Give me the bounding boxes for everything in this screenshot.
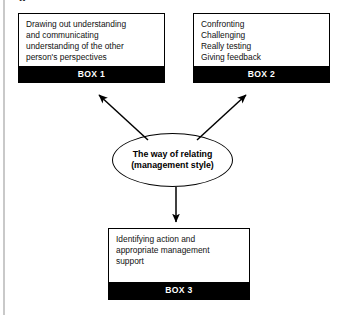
box-2-label: BOX 2 (194, 66, 329, 83)
box-1-line-2: and communicating (26, 30, 158, 41)
box-1-line-4: person's perspectives (26, 52, 158, 63)
arrow-to-box2 (197, 95, 246, 140)
box-3-line-1: Identifying action and (116, 234, 243, 245)
box-3[interactable]: Identifying action and appropriate manag… (108, 228, 250, 300)
box-2-line-3: Really testing (201, 41, 323, 52)
box-1-line-1: Drawing out understanding (26, 19, 158, 30)
box-2-line-4: Giving feedback (201, 52, 323, 63)
scan-artifact-line (3, 0, 5, 315)
box-1[interactable]: Drawing out understanding and communicat… (18, 13, 165, 83)
diagram-canvas: g Drawing out understanding and communic… (0, 0, 342, 315)
box-2-line-2: Challenging (201, 30, 323, 41)
center-node-line-2: (management style) (131, 160, 214, 171)
arrow-to-box1 (99, 95, 148, 140)
box-2-line-1: Confronting (201, 19, 323, 30)
center-ellipse-node[interactable]: The way of relating (management style) (112, 133, 233, 187)
box-3-line-3: support (116, 256, 243, 267)
box-3-label: BOX 3 (109, 282, 249, 299)
box-2[interactable]: Confronting Challenging Really testing G… (193, 13, 330, 83)
box-1-body: Drawing out understanding and communicat… (19, 14, 164, 66)
cropped-caption-glyph: g (19, 0, 26, 1)
box-1-line-3: understanding of the other (26, 41, 158, 52)
center-node-line-1: The way of relating (133, 149, 213, 160)
box-1-label: BOX 1 (19, 66, 164, 83)
box-2-body: Confronting Challenging Really testing G… (194, 14, 329, 66)
box-3-line-2: appropriate management (116, 245, 243, 256)
box-3-body: Identifying action and appropriate manag… (109, 229, 249, 282)
